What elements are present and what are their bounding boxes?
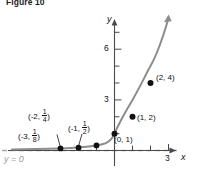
exponential-graph-plot (0, 0, 201, 184)
x-tick-label-3: 3 (165, 154, 170, 163)
point-label-neg1-close: ) (87, 124, 90, 133)
y-axis-arrow (112, 19, 118, 26)
point-label-neg3-open: (-3, (18, 132, 32, 141)
x-axis-label: x (181, 153, 186, 162)
point-label-1: (1, 2) (137, 114, 156, 122)
y-axis-ticks (115, 32, 122, 133)
point-label-neg2: (-2, 14) (28, 108, 50, 123)
y-axis-label: y (107, 15, 112, 24)
data-point-1 (130, 114, 136, 120)
data-point-neg2 (76, 145, 82, 151)
point-label-neg3-close: ) (37, 132, 40, 141)
leader-line-neg1 (79, 134, 82, 145)
point-label-2: (2, 4) (156, 74, 175, 82)
y-tick-label-6: 6 (104, 44, 109, 53)
data-point-2 (148, 80, 154, 86)
point-label-0: (0, 1) (114, 136, 133, 144)
data-point-neg3 (58, 146, 64, 152)
y-tick-label-3: 3 (104, 95, 109, 104)
asymptote-label: y = 0 (4, 155, 24, 164)
curve-arrow (164, 15, 172, 23)
point-label-neg1: (-1, 12) (68, 120, 90, 135)
data-point-neg1 (94, 143, 100, 149)
point-label-neg3: (-3, 18) (18, 128, 40, 143)
leader-line-neg2 (57, 135, 60, 146)
point-label-neg2-close: ) (47, 112, 50, 121)
figure-container: Figure 10 (0, 0, 201, 184)
point-label-neg1-open: (-1, (68, 124, 82, 133)
point-label-neg2-open: (-2, (28, 112, 42, 121)
x-axis-arrow (170, 148, 177, 154)
